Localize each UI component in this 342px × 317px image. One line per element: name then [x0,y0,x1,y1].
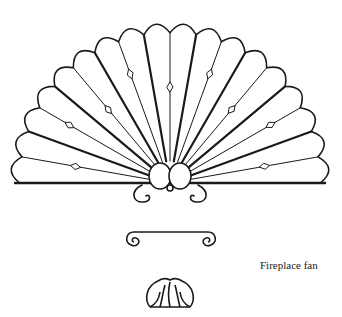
shell-ornament-drawing [147,279,194,307]
fan-drawing [11,24,329,202]
figure-caption: Fireplace fan [260,259,318,271]
scroll-bar-drawing [127,232,216,246]
